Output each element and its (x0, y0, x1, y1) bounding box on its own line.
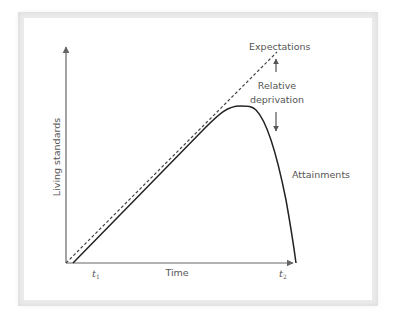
y-axis-label: Living standards (51, 118, 62, 196)
t2-subscript: 2 (283, 273, 287, 280)
x-axis-label: Time (164, 267, 188, 278)
expectations-line (66, 52, 277, 263)
relative-deprivation-diagram: Expectations Relative deprivation Attain… (0, 0, 396, 327)
relative-label: Relative (258, 80, 296, 91)
expectations-label: Expectations (249, 41, 310, 52)
deprivation-label: deprivation (250, 94, 304, 105)
attainments-curve (73, 106, 296, 263)
t1-subscript: 1 (96, 273, 100, 280)
attainments-label: Attainments (292, 169, 350, 180)
